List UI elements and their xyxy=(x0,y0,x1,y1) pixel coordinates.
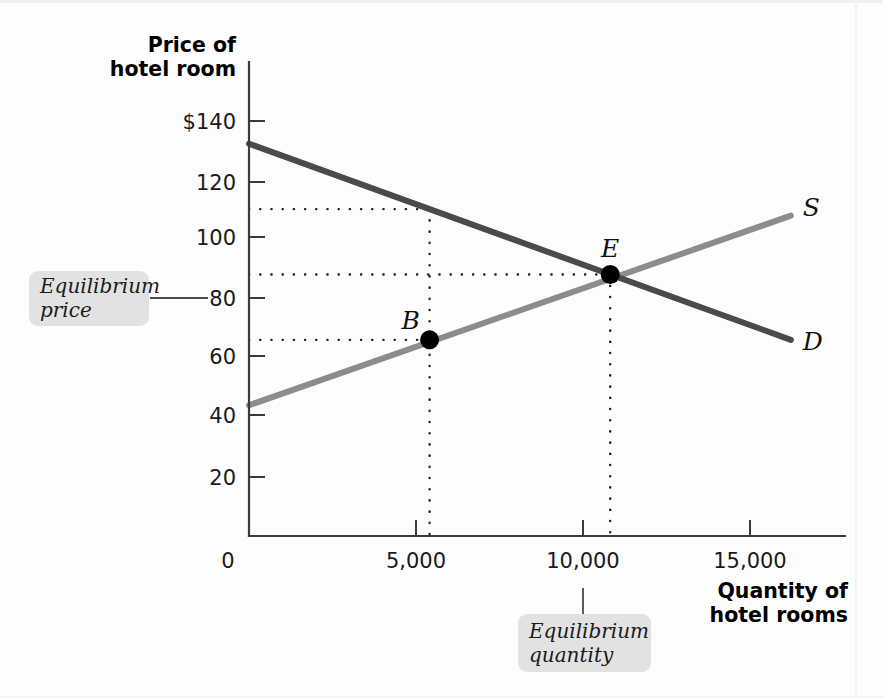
supply-demand-chart: S D $140 120 100 80 60 40 20 xyxy=(0,0,883,698)
y-axis-tick-labels: $140 120 100 80 60 40 20 xyxy=(183,110,236,490)
demand-curve-label: D xyxy=(802,327,823,356)
y-axis-title-line2: hotel room xyxy=(110,57,236,81)
equilibrium-quantity-callout: Equilibrium quantity xyxy=(518,588,651,672)
y-tick-label-100: 100 xyxy=(196,226,236,250)
y-tick-label-20: 20 xyxy=(209,466,236,490)
equilibrium-point-E xyxy=(601,265,620,284)
x-tick-label-5000: 5,000 xyxy=(386,549,446,573)
x-tick-label-15000: 15,000 xyxy=(713,549,786,573)
equilibrium-quantity-line2: quantity xyxy=(529,643,614,667)
x-axis-title: Quantity of hotel rooms xyxy=(710,579,849,627)
data-point-B xyxy=(420,330,439,349)
y-axis-ticks xyxy=(249,121,265,477)
equilibrium-price-line1: Equilibrium xyxy=(39,274,160,298)
x-tick-label-10000: 10,000 xyxy=(546,549,619,573)
x-tick-label-0: 0 xyxy=(221,549,234,573)
y-tick-label-140: $140 xyxy=(183,110,236,134)
y-tick-label-80: 80 xyxy=(209,287,236,311)
x-axis-tick-labels: 0 5,000 10,000 15,000 xyxy=(221,549,786,573)
supply-curve-label: S xyxy=(803,193,820,222)
x-axis-title-line1: Quantity of xyxy=(717,579,849,603)
y-tick-label-120: 120 xyxy=(196,171,236,195)
equilibrium-quantity-line1: Equilibrium xyxy=(528,619,649,643)
y-axis-title-line1: Price of xyxy=(148,33,237,57)
y-tick-label-40: 40 xyxy=(209,404,236,428)
figure-container: S D $140 120 100 80 60 40 20 xyxy=(0,0,883,698)
guide-lines xyxy=(249,209,610,536)
x-axis-title-line2: hotel rooms xyxy=(710,603,848,627)
equilibrium-price-callout: Equilibrium price xyxy=(29,271,208,326)
x-axis-ticks xyxy=(416,520,750,536)
curves xyxy=(249,144,791,406)
equilibrium-point-label-E: E xyxy=(600,234,619,263)
data-point-label-B: B xyxy=(400,306,419,335)
data-points: E B xyxy=(400,234,619,349)
equilibrium-price-line2: price xyxy=(40,298,92,322)
y-axis-title: Price of hotel room xyxy=(110,33,237,81)
y-tick-label-60: 60 xyxy=(209,345,236,369)
